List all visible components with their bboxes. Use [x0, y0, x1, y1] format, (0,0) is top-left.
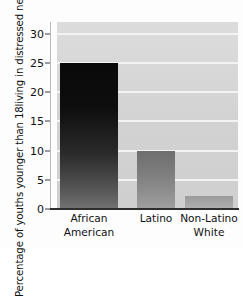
bar-african-american[interactable] — [60, 63, 118, 209]
y-tick-label-10: 10 — [30, 145, 44, 156]
x-category-label-non-latino-white: Non-Latino White — [175, 212, 243, 239]
y-axis-title-line-2: living in distressed neighborhoods — [14, 0, 26, 106]
y-tick-label-20: 20 — [30, 87, 44, 98]
bar-non-latino-white[interactable] — [185, 196, 233, 209]
bar-fill — [60, 63, 118, 209]
bar-fill — [137, 151, 175, 209]
bar-fill — [185, 196, 233, 209]
y-tick-label-25: 25 — [30, 57, 44, 68]
bar-latino[interactable] — [137, 151, 175, 209]
x-axis-line — [50, 208, 239, 210]
x-category-label-african-american: African American — [55, 212, 123, 239]
y-tick-label-15: 15 — [30, 116, 44, 127]
y-axis-ticks: 051015202530 — [26, 0, 50, 248]
y-axis-line — [50, 22, 51, 209]
y-tick-label-0: 0 — [37, 204, 44, 215]
gridline-30 — [57, 33, 238, 35]
y-tick-label-30: 30 — [30, 28, 44, 39]
y-tick-label-5: 5 — [37, 174, 44, 185]
y-axis-title-line-1: Percentage of youths younger than 18 — [14, 106, 26, 297]
x-axis-category-labels: African AmericanLatinoNon-Latino White — [57, 212, 243, 248]
plot-area — [57, 22, 238, 209]
